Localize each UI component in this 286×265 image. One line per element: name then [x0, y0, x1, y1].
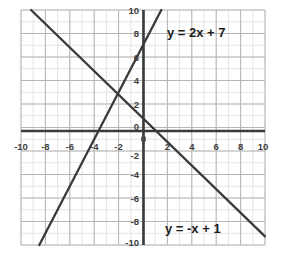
- equation-label-line2: y = -x + 1: [165, 221, 221, 236]
- x-tick-label-plus6: 6: [214, 141, 219, 152]
- origin-marker: [141, 135, 146, 142]
- y-tick-label-plus10: 10: [128, 5, 139, 16]
- y-tick-label-minus2: -2: [131, 150, 139, 161]
- y-tick-label-minus4: -4: [131, 169, 140, 180]
- y-tick-label-minus6: -6: [131, 193, 139, 204]
- coordinate-graph-figure: -10 -8 -6 -4 -2 2 4 6 8 10 10 8 6 4 2 0 …: [0, 0, 286, 265]
- x-tick-label-plus2: 2: [165, 141, 170, 152]
- y-tick-label-plus2: 2: [134, 99, 139, 110]
- y-tick-label-plus6: 6: [134, 52, 139, 63]
- x-tick-label-plus4: 4: [189, 141, 195, 152]
- x-tick-label-minus10: -10: [14, 141, 28, 152]
- x-tick-label-minus6: -6: [66, 141, 74, 152]
- y-tick-label-minus8: -8: [131, 216, 139, 227]
- graph-canvas: -10 -8 -6 -4 -2 2 4 6 8 10 10 8 6 4 2 0 …: [0, 0, 286, 265]
- y-tick-label-plus4: 4: [134, 75, 140, 86]
- x-tick-label-minus2: -2: [114, 141, 122, 152]
- x-tick-label-minus4: -4: [90, 141, 99, 152]
- x-tick-label-minus8: -8: [41, 141, 49, 152]
- x-tick-label-plus10: 10: [258, 141, 269, 152]
- x-tick-label-plus8: 8: [238, 141, 243, 152]
- y-tick-label-zero: 0: [134, 121, 139, 132]
- equation-label-line1: y = 2x + 7: [167, 25, 226, 40]
- y-tick-label-minus10: -10: [125, 237, 139, 248]
- y-tick-label-plus8: 8: [134, 28, 139, 39]
